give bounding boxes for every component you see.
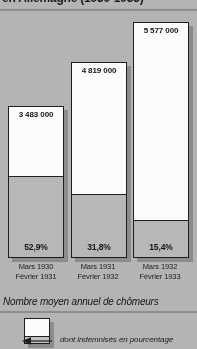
caption-divider <box>0 311 197 313</box>
bar-percent-label: 15,4% <box>134 242 188 252</box>
bar-1930[interactable]: 3 483 000 52,9% <box>8 106 64 258</box>
x-axis-label-line2: Février 1932 <box>65 272 131 282</box>
bar-indemnified-segment: 15,4% <box>134 220 188 257</box>
bar-total-segment: 5 577 000 <box>134 23 188 220</box>
x-axis-labels: Mars 1930 Février 1931 Mars 1931 Février… <box>0 262 197 290</box>
x-axis-label-line2: Février 1931 <box>3 272 69 282</box>
chart-legend: dont indemnisés en pourcentage <box>0 315 197 349</box>
bar-value-label: 4 819 000 <box>72 66 126 75</box>
bar-indemnified-segment: 52,9% <box>9 176 63 257</box>
chart-caption: Nombre moyen annuel de chômeurs <box>3 296 159 307</box>
x-axis-label-line1: Mars 1930 <box>3 262 69 272</box>
bar-value-label: 5 577 000 <box>134 26 188 35</box>
chart-figure: en Allemagne (1930-1933) 3 483 000 52,9%… <box>0 0 197 349</box>
bar-percent-label: 52,9% <box>9 242 63 252</box>
bar-1932[interactable]: 5 577 000 15,4% <box>133 22 189 258</box>
bar-indemnified-segment: 31,8% <box>72 194 126 257</box>
x-axis-label-1932: Mars 1932 Février 1933 <box>127 262 193 282</box>
chart-title-cropped: en Allemagne (1930-1933) <box>0 0 197 9</box>
x-axis-label-line1: Mars 1931 <box>65 262 131 272</box>
page-title: en Allemagne (1930-1933) <box>2 0 144 5</box>
bar-1931[interactable]: 4 819 000 31,8% <box>71 62 127 258</box>
plot-area: 3 483 000 52,9% 4 819 000 31,8% <box>0 11 197 258</box>
bar-total-segment: 4 819 000 <box>72 63 126 194</box>
x-axis-label-1930: Mars 1930 Février 1931 <box>3 262 69 282</box>
legend-label: dont indemnisés en pourcentage <box>60 335 173 344</box>
bar-value-label: 3 483 000 <box>9 110 63 119</box>
bar-total-segment: 3 483 000 <box>9 107 63 176</box>
x-axis-label-line1: Mars 1932 <box>127 262 193 272</box>
x-axis-label-line2: Février 1933 <box>127 272 193 282</box>
bar-percent-label: 31,8% <box>72 242 126 252</box>
x-axis-label-1931: Mars 1931 Février 1932 <box>65 262 131 282</box>
left-arrow-icon <box>22 337 52 345</box>
